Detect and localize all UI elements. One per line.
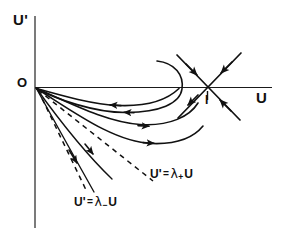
orbit-6 (37, 89, 95, 193)
phase-portrait-canvas (0, 0, 286, 238)
eig-plus-rhs: U (183, 167, 193, 181)
eig-plus-lambda: λ (170, 166, 177, 181)
eig-minus-lambda: λ (94, 194, 101, 209)
saddle-point-label: I (205, 94, 208, 106)
vertical-axis-label: U' (13, 12, 28, 27)
eigendirection-plus-label: U'=λ+U (150, 168, 193, 182)
eigendirection-minus-label: U'=λ−U (74, 196, 117, 210)
saddle-arrow-ne-inward (221, 62, 232, 73)
saddle-arrow-nw-inward (186, 64, 197, 75)
orbit-1-arrow (124, 112, 134, 113)
phase-portrait-figure: U' U O I U'=λ+U U'=λ−U (0, 0, 286, 238)
origin-label: O (17, 76, 27, 89)
orbit-4-arrow (143, 143, 154, 144)
eig-minus-rhs: U (107, 195, 117, 209)
orbit-5 (37, 89, 113, 180)
saddle-arrow-se-inward (220, 100, 231, 111)
orbit-3 (37, 89, 199, 125)
orbit-6-arrow (69, 150, 77, 163)
axes-group (35, 16, 272, 228)
eig-plus-lhs: U' (150, 167, 162, 181)
eig-minus-lhs: U' (74, 195, 86, 209)
horizontal-axis-label: U (256, 90, 267, 105)
orbit-3-arrow (138, 126, 149, 127)
orbit-2-arrow (110, 105, 121, 106)
